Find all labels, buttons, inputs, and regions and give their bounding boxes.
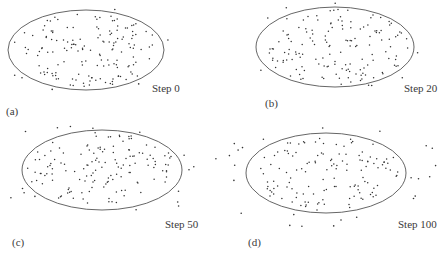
panel-d-plot (215, 127, 436, 227)
panel-b-step-label: Step 20 (404, 82, 437, 94)
panel-a-plot (8, 9, 169, 91)
panel-c-step-label: Step 50 (165, 218, 198, 230)
panel-d-label: (d) (248, 236, 261, 248)
scatter-panels (0, 0, 442, 258)
boundary-ellipse (22, 130, 182, 210)
panel-a-step-label: Step 0 (152, 82, 180, 94)
panel-c-plot (10, 126, 195, 211)
panel-b-plot (256, 3, 418, 88)
panel-c-label: (c) (12, 236, 24, 248)
panel-d-step-label: Step 100 (398, 218, 437, 230)
panel-b-label: (b) (265, 97, 278, 109)
panel-a-label: (a) (6, 105, 18, 117)
figure: (a) Step 0 (b) Step 20 (c) Step 50 (d) S… (0, 0, 442, 258)
boundary-ellipse (246, 133, 406, 213)
